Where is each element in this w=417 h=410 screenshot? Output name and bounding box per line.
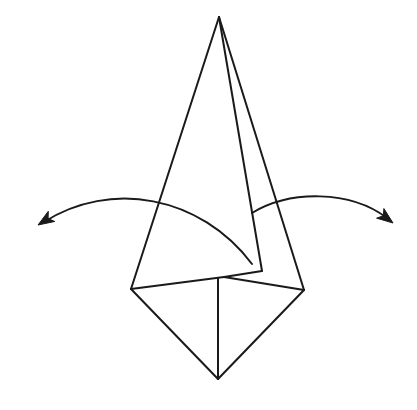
inner-flap-edge xyxy=(219,17,262,271)
right-outer-edge xyxy=(219,17,304,290)
left-fold-arrow xyxy=(38,199,252,264)
arrowhead-icon xyxy=(377,209,393,223)
right-fold-arrow-curve xyxy=(252,196,387,218)
lower-left-edge xyxy=(131,289,218,379)
fold-arrows xyxy=(38,196,393,264)
fold-edges xyxy=(131,17,304,379)
left-base-edge xyxy=(131,277,224,289)
origami-diagram xyxy=(0,0,417,410)
flap-bottom-edge xyxy=(224,271,262,277)
left-fold-arrow-curve xyxy=(44,199,252,264)
left-outer-edge xyxy=(131,17,219,289)
lower-right-edge xyxy=(218,290,304,379)
right-fold-arrow xyxy=(252,196,393,223)
right-base-edge xyxy=(224,277,304,290)
